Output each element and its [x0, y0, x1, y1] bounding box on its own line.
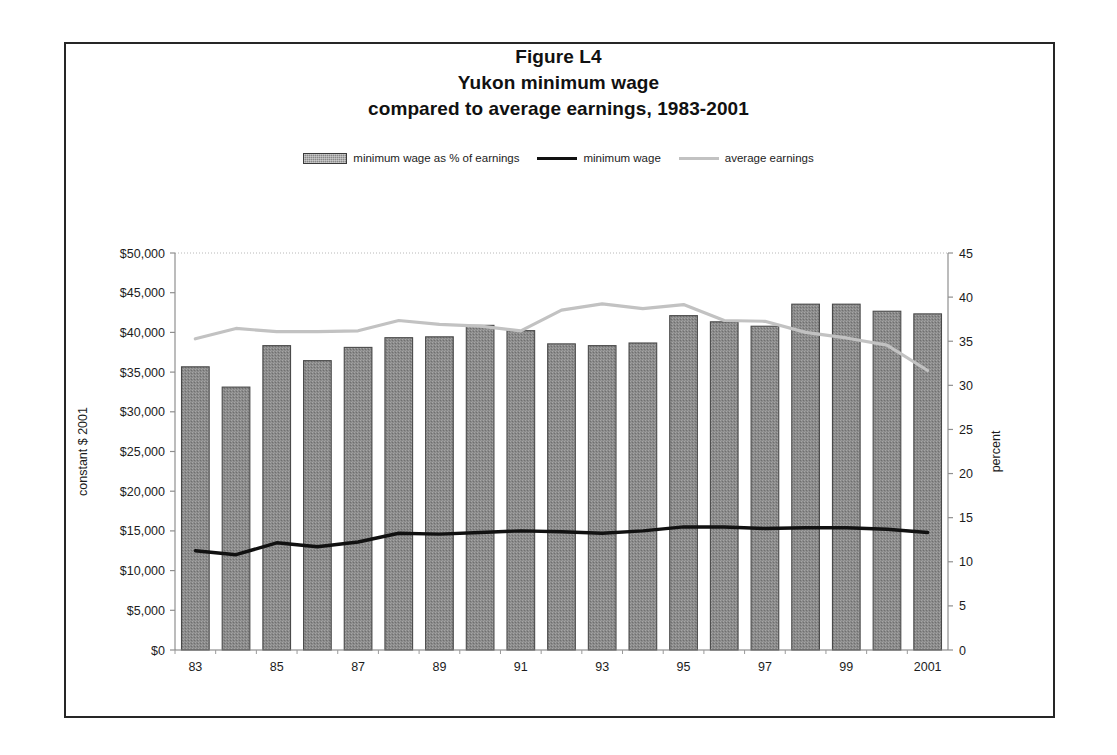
figure-page-frame — [64, 42, 1055, 718]
legend-item-average-earnings: average earnings — [679, 152, 814, 164]
figure-title-line-3: compared to average earnings, 1983-2001 — [0, 96, 1117, 122]
legend-label-minimum-wage: minimum wage — [583, 152, 660, 164]
figure-title-line-2: Yukon minimum wage — [0, 70, 1117, 96]
legend-dark-line-icon — [537, 157, 577, 160]
legend-label-average-earnings: average earnings — [725, 152, 814, 164]
legend-label-minimum-wage-percent: minimum wage as % of earnings — [353, 152, 519, 164]
legend-item-minimum-wage-percent: minimum wage as % of earnings — [303, 152, 519, 164]
legend-bar-swatch-icon — [303, 153, 347, 164]
figure-title-block: Figure L4 Yukon minimum wage compared to… — [0, 44, 1117, 122]
chart-legend: minimum wage as % of earnings minimum wa… — [0, 152, 1117, 164]
figure-title-line-1: Figure L4 — [0, 44, 1117, 70]
legend-light-line-icon — [679, 157, 719, 160]
legend-item-minimum-wage: minimum wage — [537, 152, 660, 164]
